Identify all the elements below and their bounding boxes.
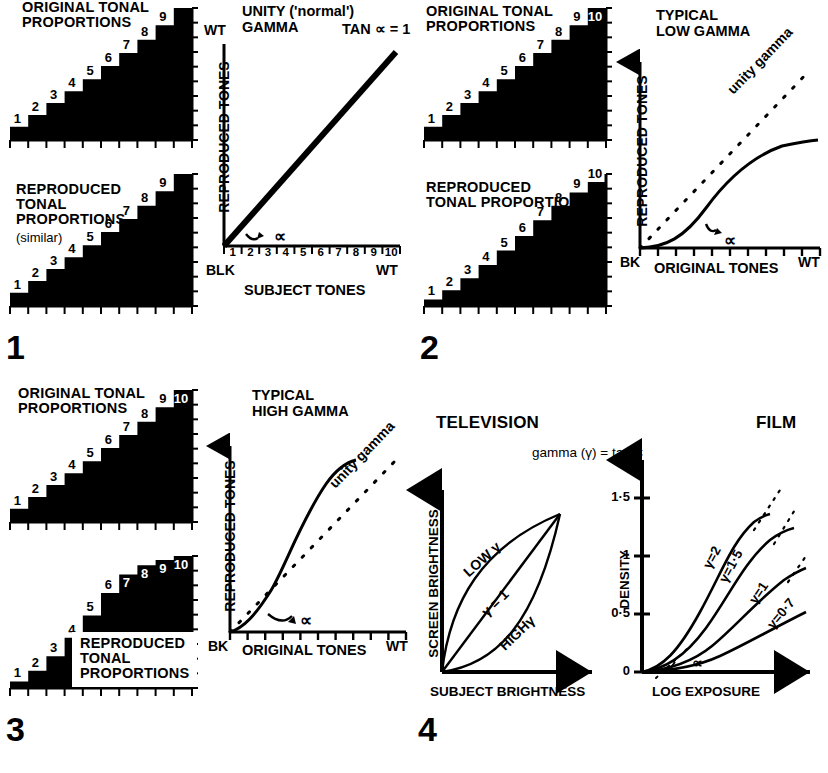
panel-2-reproduced-wedge: 12345678910 REPRODUCED TONAL PROPORTIONS [420, 168, 616, 318]
panel-1-chart-xlabel: SUBJECT TONES [244, 282, 365, 298]
panel-1-original-wedge-title: ORIGINAL TONAL PROPORTIONS [22, 0, 149, 30]
wedge-step-label: 6 [105, 50, 112, 65]
panel-3-chart-xend-label: WT [386, 638, 408, 654]
x-tick-label: 5 [296, 246, 310, 258]
panel-3-figure-number: 3 [6, 712, 25, 746]
panel-3-original-wedge: 12345678910 ORIGINAL TONAL PROPORTIONS [6, 384, 202, 534]
wedge-step-label: 8 [141, 566, 148, 581]
wedge-step-label: 10 [588, 166, 602, 181]
x-tick-label: 8 [349, 246, 363, 258]
panel-1: 123456789 ORIGINAL TONAL PROPORTIONS 123… [0, 0, 410, 380]
wedge-step-label: 2 [32, 655, 39, 670]
wedge-step-label: 7 [123, 419, 130, 434]
wedge-step-label: 6 [105, 577, 112, 592]
wedge-step-label: 9 [159, 391, 166, 406]
panel-4-tv-xlabel: SUBJECT BRIGHTNESS [430, 684, 585, 699]
wedge-step-label: 6 [519, 220, 526, 235]
panel-2-chart-title: TYPICAL LOW GAMMA [656, 8, 750, 39]
tv-chart-svg [420, 472, 610, 702]
wedge-step-label: 10 [174, 557, 188, 572]
x-tick-label: 1 [226, 246, 240, 258]
panel-4-film-xlabel: LOG EXPOSURE [652, 684, 760, 699]
wedge-step-label: 3 [50, 469, 57, 484]
panel-3-chart: TYPICAL HIGH GAMMA REPRODUCED TONES unit… [204, 388, 414, 688]
wedge-step-label: 2 [32, 99, 39, 114]
x-tick-label: 2 [243, 246, 257, 258]
panel-3-chart-title: TYPICAL HIGH GAMMA [252, 388, 349, 419]
wedge-step-label: 7 [123, 575, 130, 590]
wedge-step-label: 8 [555, 24, 562, 39]
panel-1-chart: UNITY ('normal') GAMMA TAN ∝ = 1 REPRODU… [200, 4, 408, 294]
wedge-step-label: 4 [68, 241, 76, 256]
wedge-step-label: 4 [482, 75, 490, 90]
wedge-step-label: 2 [32, 265, 39, 280]
wedge-step-label: 8 [141, 190, 148, 205]
panel-1-original-wedge: 123456789 ORIGINAL TONAL PROPORTIONS [6, 2, 202, 152]
panel-2-chart-xstart-label: BK [620, 254, 640, 270]
panel-4-film-chart: DENSITY LOG EXPOSURE 00·511·5 γ=2 γ=1·5 … [604, 446, 828, 736]
wedge-step-label: 5 [86, 63, 93, 78]
panel-2-reproduced-wedge-title: REPRODUCED TONAL PROPORTIONS [426, 180, 590, 210]
x-tick-label: 3 [261, 246, 275, 258]
panel-1-chart-xend-label: WT [376, 262, 398, 278]
wedge-step-label: 2 [32, 481, 39, 496]
panel-4-tv-chart: SCREEN BRIGHTNESS SUBJECT BRIGHTNESS LOW… [420, 472, 610, 732]
wedge-step-label: 6 [519, 50, 526, 65]
wedge-step-label: 3 [464, 87, 471, 102]
wedge-step-label: 4 [482, 249, 490, 264]
x-tick-label: 6 [314, 246, 328, 258]
wedge-step-label: 9 [159, 561, 166, 576]
y-tick-label: 0 [604, 663, 630, 678]
panel-3-reproduced-wedge-title: REPRODUCED TONAL PROPORTIONS [80, 636, 189, 682]
panel-2-chart-ylabel: REPRODUCED TONES [634, 71, 650, 231]
wedge-step-label: 9 [573, 9, 580, 24]
panel-1-figure-number: 1 [6, 330, 25, 364]
panel-3-original-wedge-title: ORIGINAL TONAL PROPORTIONS [18, 386, 145, 416]
panel-4-film-yticklabels: 00·511·5 [604, 446, 644, 702]
y-tick-label: 0·5 [604, 605, 630, 620]
panel-3-chart-xstart-label: BK [208, 638, 228, 654]
wedge-step-label: 5 [86, 445, 93, 460]
panel-4-heading-film: FILM [756, 414, 796, 432]
wedge-step-label: 1 [14, 493, 21, 508]
y-tick-label: 1 [604, 547, 630, 562]
panel-3-reproduced-wedge-titlebox: REPRODUCED TONAL PROPORTIONS [72, 632, 197, 687]
wedge-step-label: 1 [428, 111, 435, 126]
panel-2: 12345678910 ORIGINAL TONAL PROPORTIONS 1… [414, 0, 828, 380]
panel-3: 12345678910 ORIGINAL TONAL PROPORTIONS 1… [0, 382, 414, 773]
wedge-step-label: 5 [500, 63, 507, 78]
panel-3-chart-xlabel: ORIGINAL TONES [242, 642, 366, 658]
wedge-step-label: 2 [446, 274, 453, 289]
panel-2-original-wedge: 12345678910 ORIGINAL TONAL PROPORTIONS [420, 2, 616, 152]
wedge-step-label: 3 [50, 640, 57, 655]
panel-2-chart-angle-label: ∝ [724, 230, 736, 251]
x-tick-label: 7 [331, 246, 345, 258]
panel-3-chart-angle-label: ∝ [300, 610, 312, 631]
wedge-step-label: 5 [86, 229, 93, 244]
wedge-step-label: 9 [159, 175, 166, 190]
panel-2-chart-xend-label: WT [798, 254, 820, 270]
panel-3-chart-ylabel: REPRODUCED TONES [222, 456, 238, 616]
panel-1-reproduced-wedge: 123456789 REPRODUCED TONAL PROPORTIONS (… [6, 168, 202, 318]
x-tick-label: 9 [367, 246, 381, 258]
wedge-step-label: 4 [68, 75, 76, 90]
panel-1-chart-xstart-label: BLK [206, 262, 235, 278]
x-tick-label: 10 [384, 246, 398, 258]
panel-4: TELEVISION FILM gamma (γ) = tan ∝ 4 SCRE… [414, 382, 828, 773]
panel-4-heading-television: TELEVISION [436, 414, 539, 432]
panel-2-chart: TYPICAL LOW GAMMA REPRODUCED TONES unity… [614, 8, 826, 298]
wedge-step-label: 7 [123, 37, 130, 52]
wedge-step-label: 1 [14, 665, 21, 680]
panel-2-chart-xlabel: ORIGINAL TONES [654, 260, 778, 276]
wedge-step-label: 1 [428, 283, 435, 298]
panel-4-film-angle-label: ∝ [692, 654, 703, 672]
panel-1-reproduced-wedge-title: REPRODUCED TONAL PROPORTIONS [16, 182, 125, 228]
panel-1-chart-ylabel: REPRODUCED TONES [216, 57, 232, 217]
wedge-step-label: 6 [105, 432, 112, 447]
wedge-step-label: 2 [446, 99, 453, 114]
wedge-step-label: 1 [14, 111, 21, 126]
panel-2-original-wedge-title: ORIGINAL TONAL PROPORTIONS [426, 4, 553, 34]
wedge-step-label: 10 [588, 9, 602, 24]
panel-1-chart-angle-label: ∝ [274, 226, 286, 247]
x-tick-label: 4 [279, 246, 293, 258]
